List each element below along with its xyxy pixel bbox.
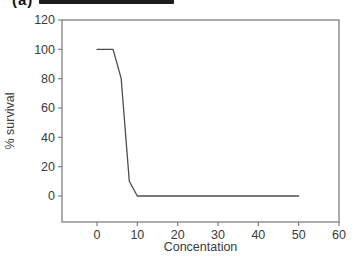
x-tick-label: 0 [94,228,101,242]
plot-area-border [62,20,339,222]
y-tick-label: 120 [34,13,55,27]
y-tick-label: 20 [41,160,55,174]
x-tick-label: 40 [251,228,265,242]
y-tick-label: 80 [41,72,55,86]
y-tick-label: 40 [41,131,55,145]
survival-line-series [97,49,299,196]
x-tick-label: 60 [332,228,346,242]
figure-panel: (a) 0204060801001200102030405060% surviv… [0,0,359,278]
survival-chart-svg: 0204060801001200102030405060% survivalCo… [0,0,359,278]
x-axis-title: Concentation [164,240,238,254]
x-tick-label: 10 [130,228,144,242]
y-tick-label: 100 [34,43,55,57]
y-axis-title: % survival [3,93,17,150]
y-tick-label: 60 [41,101,55,115]
y-tick-label: 0 [48,189,55,203]
x-tick-label: 50 [292,228,306,242]
